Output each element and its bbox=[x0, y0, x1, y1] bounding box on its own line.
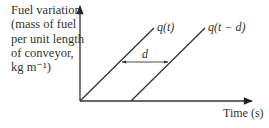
x-axis-label: Time (s) bbox=[223, 106, 264, 121]
y-axis-label: Fuel variation (mass of fuel per unit le… bbox=[11, 3, 81, 74]
y-axis-label-line: kg m⁻¹) bbox=[11, 60, 81, 74]
y-axis-label-line: (mass of fuel bbox=[11, 17, 81, 31]
curve-label-q-t-minus-d: q(t − d) bbox=[208, 20, 245, 35]
y-axis-label-line: per unit length bbox=[11, 32, 81, 46]
delay-label: d bbox=[142, 47, 148, 62]
y-axis-label-line: Fuel variation bbox=[11, 3, 81, 17]
curve-label-q-t: q(t) bbox=[157, 20, 174, 35]
y-axis-label-line: of conveyor, bbox=[11, 46, 81, 60]
